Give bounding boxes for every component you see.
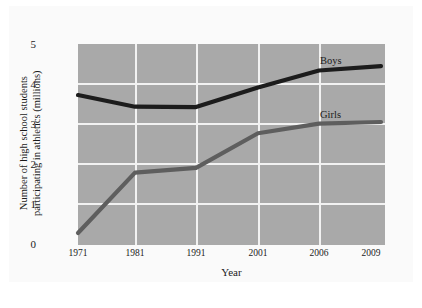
x-tick-2001: 2001 [235,249,281,259]
series-lines [78,44,385,245]
series-label-girls: Girls [320,110,341,121]
chart-page: Number of high school students participa… [0,0,422,308]
y-tick-1: 1 [10,199,36,210]
x-tick-1971: 1971 [55,249,101,259]
x-tick-2009: 2009 [348,249,394,259]
y-tick-3: 3 [10,119,36,130]
line-series-girls [78,122,381,233]
y-axis-title-line2: participating in athletics (millions) [31,70,42,216]
line-chart-figure: Number of high school students participa… [0,0,422,308]
x-tick-1981: 1981 [112,249,158,259]
y-axis-title: Number of high school students participa… [17,45,43,241]
y-tick-0: 0 [10,239,36,250]
line-series-boys [78,66,381,107]
x-axis-title: Year [78,266,385,278]
plot-area [78,44,385,245]
series-label-boys: Boys [320,56,342,67]
x-tick-1991: 1991 [173,249,219,259]
x-tick-2006: 2006 [296,249,342,259]
y-axis-title-line1: Number of high school students [18,76,29,210]
y-tick-5: 5 [10,39,36,50]
y-tick-4: 4 [10,79,36,90]
y-tick-2: 2 [10,159,36,170]
